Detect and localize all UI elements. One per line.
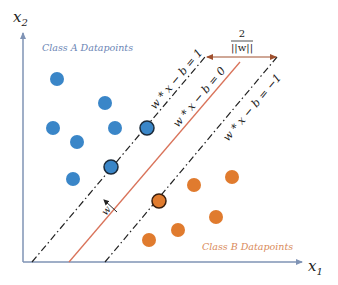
class-b-point xyxy=(187,178,201,192)
margin-annotation: 2 ||w|| xyxy=(207,28,276,57)
class-a-support-vector xyxy=(104,160,118,174)
class-a-point xyxy=(46,121,60,135)
class-a-points xyxy=(46,72,154,186)
lower-margin-line xyxy=(105,57,277,262)
class-b-support-vector xyxy=(152,194,166,208)
class-a-support-vector xyxy=(140,121,154,135)
class-b-point xyxy=(142,233,156,247)
margin-denominator: ||w|| xyxy=(231,42,253,54)
class-b-point xyxy=(225,170,239,184)
class-b-label: Class B Datapoints xyxy=(202,241,293,252)
margin-numerator: 2 xyxy=(239,28,245,39)
normal-vector-label: w xyxy=(99,203,113,217)
class-a-point xyxy=(50,72,64,86)
lower-margin-equation: w * x − b = −1 xyxy=(220,71,284,144)
class-b-points xyxy=(142,170,239,247)
x-axis-label: x1 xyxy=(308,257,323,277)
svm-diagram: x2 x1 Class A Datapoints Class B Datapoi… xyxy=(0,0,338,285)
class-a-point xyxy=(98,96,112,110)
class-a-point xyxy=(108,121,122,135)
y-axis-label: x2 xyxy=(13,8,28,28)
class-b-point xyxy=(209,210,223,224)
class-a-label: Class A Datapoints xyxy=(42,42,133,53)
class-b-point xyxy=(171,223,185,237)
class-a-point xyxy=(70,135,84,149)
class-a-point xyxy=(66,172,80,186)
hyperplane-line xyxy=(69,62,240,262)
